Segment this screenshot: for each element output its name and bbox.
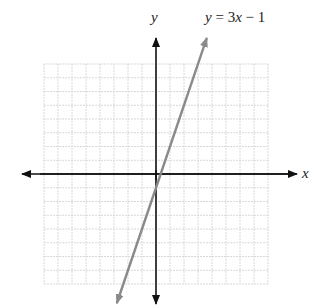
coordinate-plane: x y y = 3x − 1 (0, 0, 327, 305)
y-axis-label: y (149, 9, 158, 25)
x-axis-label: x (301, 165, 309, 181)
equation-label: y = 3x − 1 (203, 9, 265, 25)
equation-mid: = 3 (212, 9, 235, 25)
line-y-equals-3x-minus-1 (161, 38, 207, 174)
equation-y: y (203, 9, 212, 25)
equation-tail: − 1 (242, 9, 265, 25)
